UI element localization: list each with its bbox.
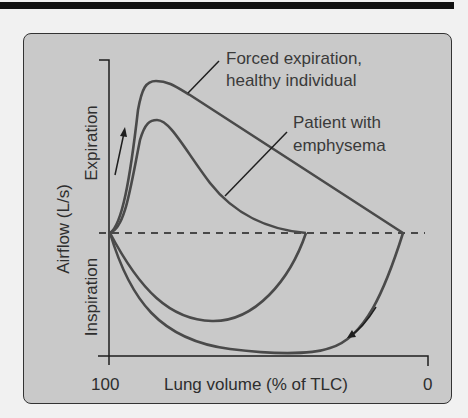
- inspiration-region-label: Inspiration: [82, 258, 101, 336]
- healthy-leader-line: [188, 61, 219, 93]
- x-axis-label: Lung volume (% of TLC): [164, 375, 348, 394]
- emphysema-label-line2: emphysema: [293, 136, 386, 155]
- x-tick-left: 100: [91, 375, 119, 394]
- emphysema-label-line1: Patient with: [293, 113, 381, 132]
- axes: [98, 60, 428, 366]
- healthy-label-line1: Forced expiration,: [226, 49, 362, 68]
- x-tick-right: 0: [423, 375, 432, 394]
- expiration-arrow-icon: [115, 127, 127, 175]
- flow-volume-chart: Forced expiration, healthy individual Pa…: [0, 0, 468, 418]
- healthy-inspiration-curve: [110, 233, 403, 353]
- emphysema-leader-line: [225, 132, 287, 196]
- emphysema-expiration-curve: [110, 120, 306, 233]
- healthy-label-line2: healthy individual: [226, 71, 356, 90]
- y-axis-label: Airflow (L/s): [54, 184, 73, 274]
- healthy-expiration-curve: [110, 81, 403, 233]
- expiration-region-label: Expiration: [82, 105, 101, 181]
- x-axis: [98, 356, 428, 366]
- emphysema-inspiration-curve: [110, 233, 306, 321]
